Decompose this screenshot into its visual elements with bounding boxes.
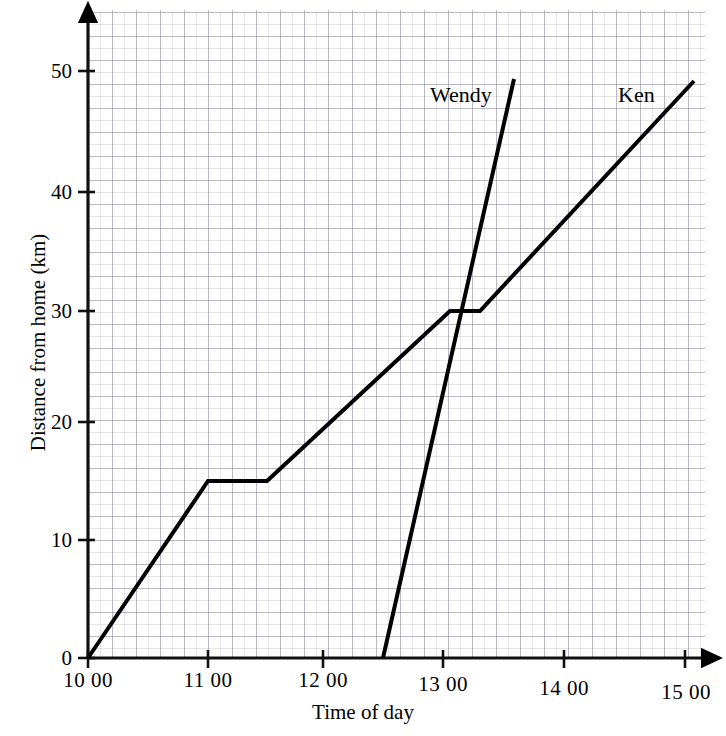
x-tick-label-1300: 13 00 bbox=[418, 672, 468, 697]
series-label-ken: Ken bbox=[618, 82, 655, 108]
x-tick-label-1000: 10 00 bbox=[63, 668, 113, 693]
y-tick-label-10: 10 bbox=[36, 528, 72, 553]
graph-canvas bbox=[0, 0, 726, 736]
travel-graph-page: 10 00 11 00 12 00 13 00 14 00 15 00 0 10… bbox=[0, 0, 726, 736]
x-tick-label-1400: 14 00 bbox=[539, 676, 589, 701]
series-line-ken bbox=[88, 81, 694, 658]
x-tick-label-1200: 12 00 bbox=[298, 668, 348, 693]
x-tick-label-1100: 11 00 bbox=[184, 668, 233, 693]
y-tick-label-50: 50 bbox=[36, 59, 72, 84]
x-axis-title: Time of day bbox=[0, 700, 726, 725]
series-label-wendy: Wendy bbox=[430, 82, 492, 108]
y-tick-label-0: 0 bbox=[36, 646, 72, 671]
y-axis-title: Distance from home (km) bbox=[26, 183, 51, 503]
series-line-wendy bbox=[383, 79, 514, 658]
